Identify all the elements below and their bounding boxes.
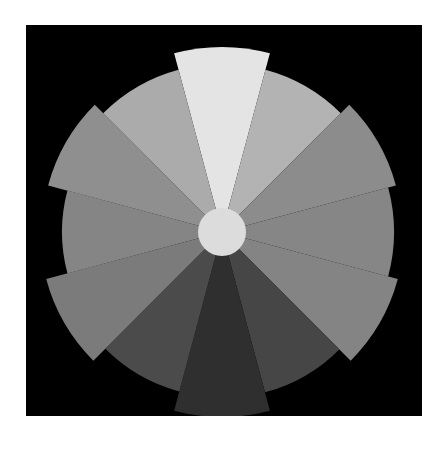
chart-panel bbox=[26, 25, 422, 416]
polar-area-chart bbox=[26, 25, 422, 416]
chart-center-hub bbox=[198, 208, 246, 256]
